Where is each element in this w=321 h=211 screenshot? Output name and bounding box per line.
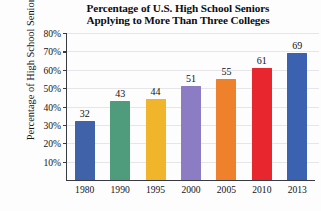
bar-group: 612010	[244, 33, 279, 180]
bar[interactable]	[75, 121, 95, 180]
bar[interactable]	[181, 86, 201, 180]
bar-value-label: 51	[186, 73, 196, 84]
y-tick-label: 70%	[43, 46, 61, 57]
bar-group: 321980	[67, 33, 102, 180]
bar[interactable]	[216, 79, 236, 180]
y-tick-label: 20%	[43, 138, 61, 149]
bar-group: 441995	[138, 33, 173, 180]
x-tick-label: 2000	[181, 184, 200, 195]
bar-value-label: 55	[221, 66, 231, 77]
x-tick-label: 2010	[252, 184, 271, 195]
y-tick-label: 40%	[43, 101, 61, 112]
bar-value-label: 69	[292, 40, 302, 51]
bar-value-label: 61	[257, 55, 267, 66]
y-tick-label: 60%	[43, 64, 61, 75]
y-tick-label: 80%	[43, 28, 61, 39]
x-tick-label: 2005	[217, 184, 236, 195]
x-tick-label: 1980	[75, 184, 94, 195]
x-tick-label: 1990	[111, 184, 130, 195]
bar-group: 552005	[209, 33, 244, 180]
y-tick-label: 10%	[43, 156, 61, 167]
bar-group: 431990	[102, 33, 137, 180]
bar-group: 692013	[280, 33, 315, 180]
bar[interactable]	[146, 99, 166, 180]
bars-layer: 3219804319904419955120005520056120106920…	[67, 33, 315, 180]
chart-title-line-1: Percentage of U.S. High School Seniors	[46, 2, 310, 14]
bar[interactable]	[110, 101, 130, 180]
y-axis-title: Percentage of High School Seniors	[25, 0, 36, 148]
bar[interactable]	[287, 53, 307, 180]
bar-chart: Percentage of U.S. High School Seniors A…	[0, 0, 321, 211]
y-tick-label: 50%	[43, 83, 61, 94]
y-tick-label: 30%	[43, 119, 61, 130]
x-tick-label: 2013	[288, 184, 307, 195]
chart-title-line-2: Applying to More Than Three Colleges	[46, 14, 310, 26]
bar[interactable]	[252, 68, 272, 180]
x-tick-label: 1995	[146, 184, 165, 195]
plot-area: 10%20%30%40%50%60%70%80% 321980431990441…	[66, 33, 315, 181]
bar-group: 512000	[173, 33, 208, 180]
bar-value-label: 43	[115, 88, 125, 99]
bar-value-label: 32	[80, 108, 90, 119]
bar-value-label: 44	[151, 86, 161, 97]
chart-title: Percentage of U.S. High School Seniors A…	[46, 2, 310, 27]
